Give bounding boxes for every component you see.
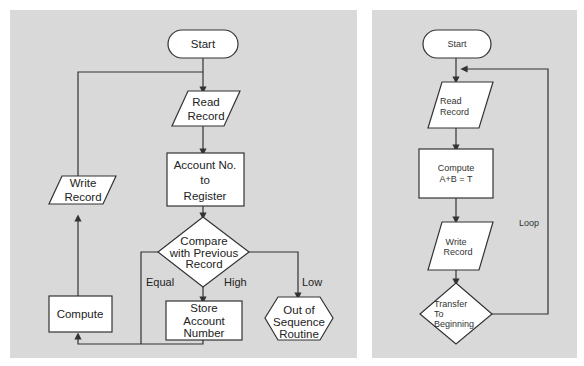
svg-text:Store: Store (190, 302, 218, 314)
right-node-start: Start (423, 30, 491, 58)
left-node-read-record: Read Record (172, 91, 240, 126)
svg-text:Compare: Compare (180, 235, 227, 247)
right-node-compute: Compute A+B = T (419, 149, 493, 198)
left-node-store-account: Store Account Number (166, 301, 242, 340)
start-label: Start (191, 38, 216, 50)
svg-text:Record: Record (187, 110, 224, 122)
edge-compare-low (248, 252, 298, 296)
left-node-account-to-register: Account No. to Register (167, 153, 244, 206)
svg-text:Read: Read (192, 96, 220, 108)
right-flowchart-panel: Start Read Record Compute A+B = T Write … (372, 10, 577, 358)
svg-text:Sequence: Sequence (273, 316, 325, 328)
svg-text:Read: Read (440, 96, 462, 106)
svg-text:Record: Record (185, 258, 222, 270)
left-flowchart-panel: Start Read Record Account No. to Registe… (10, 10, 357, 358)
left-node-start: Start (168, 30, 238, 58)
svg-text:Start: Start (447, 39, 467, 49)
svg-text:Number: Number (184, 327, 225, 339)
edge-compare-equal (141, 252, 158, 344)
edge-label-low: Low (302, 276, 322, 288)
svg-text:Write: Write (446, 237, 467, 247)
svg-text:Account: Account (183, 315, 225, 327)
right-node-read-record: Read Record (428, 82, 493, 128)
left-node-write-record: Write Record (49, 176, 116, 204)
right-node-write-record: Write Record (428, 222, 493, 270)
svg-text:Record: Record (443, 247, 472, 257)
svg-text:Compute: Compute (438, 163, 475, 173)
svg-text:Beginning: Beginning (434, 319, 474, 329)
svg-text:Transfer: Transfer (434, 299, 467, 309)
svg-text:Record: Record (440, 107, 469, 117)
edge-label-loop: Loop (519, 218, 539, 228)
svg-text:Out of: Out of (283, 304, 315, 316)
svg-text:To: To (434, 309, 444, 319)
svg-text:Routine: Routine (279, 328, 319, 340)
svg-text:Compute: Compute (57, 308, 104, 320)
right-node-transfer: Transfer To Beginning (420, 283, 492, 344)
svg-text:Register: Register (184, 190, 227, 202)
edge-label-high: High (224, 276, 247, 288)
edge-label-equal: Equal (146, 276, 174, 288)
right-flowchart-canvas: Start Read Record Compute A+B = T Write … (372, 10, 577, 358)
left-node-out-of-sequence: Out of Sequence Routine (265, 297, 333, 340)
svg-text:A+B = T: A+B = T (440, 174, 473, 184)
svg-text:Account No.: Account No. (174, 159, 237, 171)
svg-text:to: to (200, 174, 210, 186)
svg-text:Write: Write (70, 177, 97, 189)
svg-text:Record: Record (64, 191, 101, 203)
left-flowchart-canvas: Start Read Record Account No. to Registe… (10, 10, 357, 358)
left-node-compute: Compute (49, 296, 112, 332)
